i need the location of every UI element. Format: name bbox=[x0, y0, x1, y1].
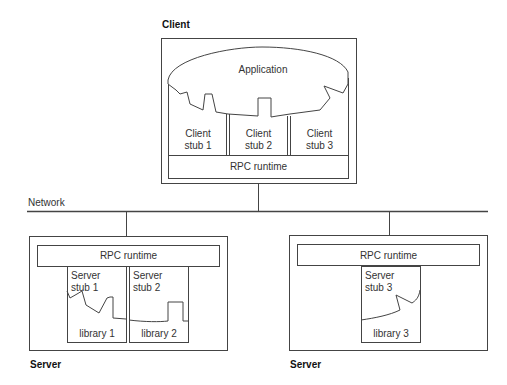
client-stub-3-line1: Client bbox=[291, 128, 348, 140]
library2-label: library 2 bbox=[129, 328, 189, 340]
client-stub-1: Client stub 1 bbox=[170, 128, 226, 152]
library1-boundary bbox=[67, 291, 126, 319]
server2-title: Server bbox=[290, 359, 321, 371]
server1-stub2-line1: Server bbox=[133, 270, 162, 282]
library3-boundary bbox=[361, 290, 420, 320]
client-stub-3-line2: stub 3 bbox=[291, 140, 348, 152]
server1-stub2-label: Server stub 2 bbox=[133, 270, 162, 294]
client-stub-2-line2: stub 2 bbox=[230, 140, 287, 152]
server1-title: Server bbox=[30, 359, 61, 371]
server2-runtime-label: RPC runtime bbox=[297, 250, 480, 262]
application-label: Application bbox=[238, 64, 288, 76]
client-stub-2-line1: Client bbox=[230, 128, 287, 140]
server2-stub3-line1: Server bbox=[365, 270, 394, 282]
application-shape bbox=[168, 47, 348, 117]
client-runtime-label: RPC runtime bbox=[168, 161, 349, 173]
server1-runtime-label: RPC runtime bbox=[37, 250, 220, 262]
library3-label: library 3 bbox=[361, 328, 421, 340]
client-stub-1-line2: stub 1 bbox=[170, 140, 226, 152]
client-stub-3: Client stub 3 bbox=[291, 128, 348, 152]
server1-stub1-line2: stub 1 bbox=[71, 282, 100, 294]
server2-stub3-label: Server stub 3 bbox=[365, 270, 394, 294]
network-label: Network bbox=[28, 197, 65, 209]
server1-stub1-label: Server stub 1 bbox=[71, 270, 100, 294]
library1-label: library 1 bbox=[67, 328, 127, 340]
library2-boundary bbox=[129, 302, 188, 322]
server2-stub3-line2: stub 3 bbox=[365, 282, 394, 294]
client-stub-1-line1: Client bbox=[170, 128, 226, 140]
client-stub-2: Client stub 2 bbox=[230, 128, 287, 152]
server1-stub1-line1: Server bbox=[71, 270, 100, 282]
server1-stub2-line2: stub 2 bbox=[133, 282, 162, 294]
client-title: Client bbox=[162, 19, 190, 31]
